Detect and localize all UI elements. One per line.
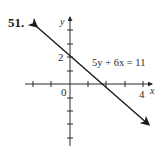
- origin-label: 0: [61, 86, 67, 98]
- coordinate-plane: y x 2 0 4 5y + 6x = 11: [0, 0, 162, 160]
- y-tick-label-2: 2: [58, 51, 64, 63]
- y-axis-label: y: [59, 16, 65, 27]
- x-axis-label: x: [149, 85, 155, 96]
- graph-figure: 51.: [0, 0, 162, 160]
- equation-line: [36, 26, 148, 124]
- problem-number: 51.: [8, 15, 24, 31]
- equation-label: 5y + 6x = 11: [92, 57, 145, 68]
- x-tick-label-4: 4: [139, 88, 145, 100]
